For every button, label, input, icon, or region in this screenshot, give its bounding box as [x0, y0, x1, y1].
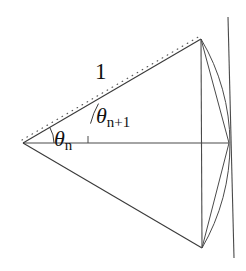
lower-chord-line [202, 143, 229, 248]
theta-n-label: θn [54, 128, 72, 153]
lower-ray-line [23, 143, 202, 248]
theta-n-subscript: n [65, 137, 72, 153]
upper-chord-line [201, 39, 229, 143]
geometry-diagram: 1 θn θn+1 [0, 0, 246, 271]
theta-n-plus-1-label: θn+1 [96, 105, 130, 130]
vertical-chord-line [201, 39, 202, 248]
theta-n-plus-1-symbol: θ [96, 103, 107, 128]
unit-length-label: 1 [95, 60, 107, 83]
geometry-canvas [0, 0, 246, 271]
tangent-line [228, 17, 234, 258]
theta-n-plus-1-subscript: n+1 [107, 114, 130, 130]
theta-n-symbol: θ [54, 126, 65, 151]
